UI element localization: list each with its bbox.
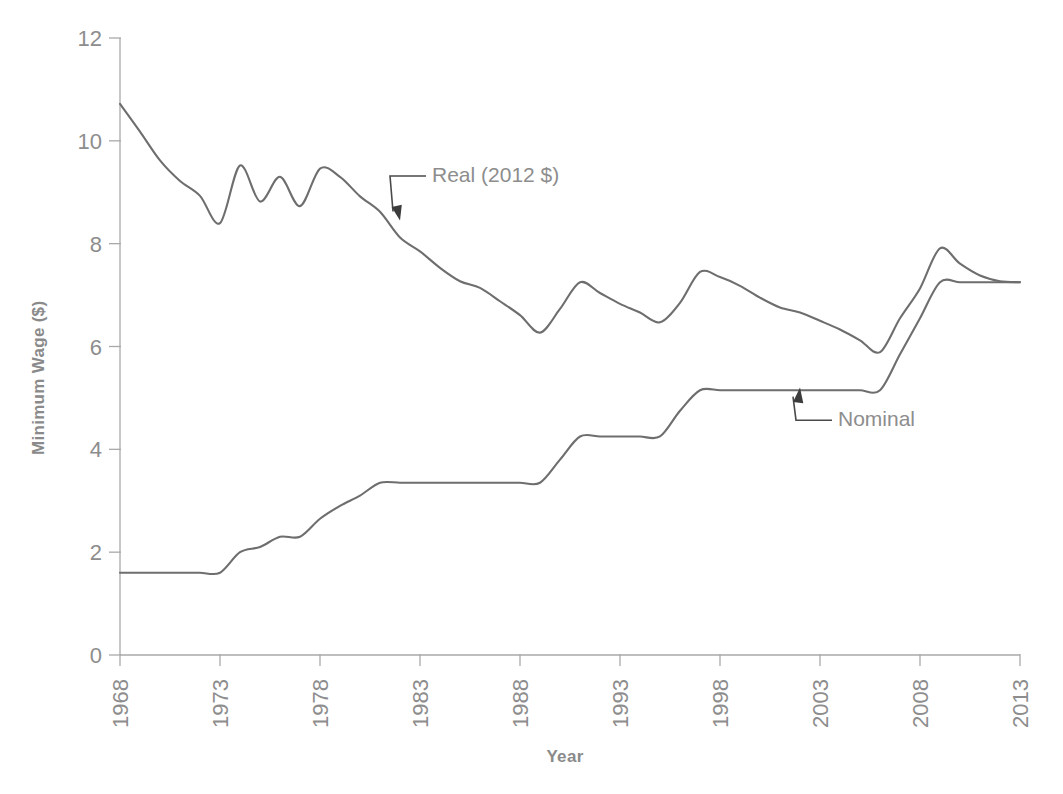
y-axis-ticks: 024681012: [78, 26, 121, 668]
x-tick-label: 1973: [208, 679, 233, 728]
y-tick-label: 4: [90, 437, 102, 462]
x-tick-label: 1968: [108, 679, 133, 728]
minimum-wage-chart: 024681012 196819731978198319881993199820…: [0, 0, 1063, 794]
annotation-arrow-head: [392, 205, 402, 221]
chart-canvas: 024681012 196819731978198319881993199820…: [0, 0, 1063, 794]
x-tick-label: 2008: [908, 679, 933, 728]
x-tick-label: 1993: [608, 679, 633, 728]
y-tick-label: 10: [78, 129, 102, 154]
x-axis-title: Year: [546, 747, 583, 766]
series-line-real: [120, 104, 1020, 353]
x-tick-label: 2013: [1008, 679, 1033, 728]
x-tick-label: 1998: [708, 679, 733, 728]
x-tick-label: 1988: [508, 679, 533, 728]
y-tick-label: 2: [90, 540, 102, 565]
y-tick-label: 8: [90, 232, 102, 257]
x-axis-ticks: 1968197319781983198819931998200320082013: [108, 654, 1033, 728]
real-series-label: Real (2012 $): [432, 163, 559, 186]
x-tick-label: 2003: [808, 679, 833, 728]
x-tick-label: 1983: [408, 679, 433, 728]
nominal-series-label: Nominal: [838, 407, 915, 430]
y-tick-label: 12: [78, 26, 102, 51]
annotation-leader-line: [390, 176, 426, 212]
y-axis-title: Minimum Wage ($): [29, 301, 48, 455]
x-tick-label: 1978: [308, 679, 333, 728]
y-tick-label: 0: [90, 643, 102, 668]
data-series-group: [120, 104, 1020, 574]
y-tick-label: 6: [90, 335, 102, 360]
